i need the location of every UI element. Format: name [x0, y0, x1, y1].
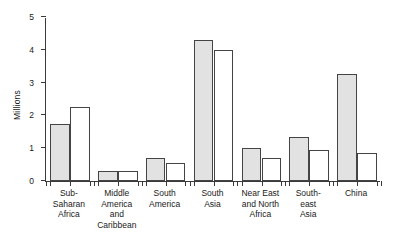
y-tick-5: 5 — [41, 16, 46, 17]
y-tick-label: 0 — [29, 177, 34, 186]
y-axis-title: Millions — [2, 0, 12, 60]
bar — [214, 50, 234, 181]
category-label: Middle America and Caribbean — [93, 188, 141, 230]
x-tick — [190, 181, 191, 186]
x-tick — [90, 181, 91, 186]
x-tick — [289, 181, 290, 186]
x-tick — [70, 181, 71, 186]
y-tick-label: 2 — [29, 111, 34, 120]
bar — [357, 153, 377, 181]
x-axis-category-labels: Sub- Saharan AfricaMiddle America and Ca… — [45, 188, 380, 238]
bar — [166, 163, 186, 181]
x-tick — [309, 181, 310, 186]
x-tick — [98, 181, 99, 186]
bar — [98, 171, 118, 181]
bar — [309, 150, 329, 181]
y-tick-label: 5 — [29, 13, 34, 22]
bar — [70, 107, 90, 181]
x-tick — [233, 181, 234, 186]
x-tick — [377, 181, 378, 186]
category-label: Sub- Saharan Africa — [45, 188, 93, 220]
x-tick — [138, 181, 139, 186]
x-tick — [285, 181, 286, 186]
x-tick — [46, 181, 47, 186]
y-axis-title-text: Millions — [12, 60, 22, 150]
x-tick — [166, 181, 167, 186]
x-tick — [242, 181, 243, 186]
x-tick — [194, 181, 195, 186]
x-tick — [237, 181, 238, 186]
category-label: Near East and North Africa — [236, 188, 284, 220]
y-tick-label: 4 — [29, 46, 34, 55]
x-tick — [214, 181, 215, 186]
y-tick-label: 3 — [29, 79, 34, 88]
bar — [146, 158, 166, 181]
plot-area: 012345 — [45, 18, 380, 182]
bar — [194, 40, 214, 181]
x-tick — [118, 181, 119, 186]
category-label: China — [332, 188, 380, 199]
x-tick — [329, 181, 330, 186]
x-tick — [333, 181, 334, 186]
x-tick — [337, 181, 338, 186]
category-label: South America — [141, 188, 189, 209]
bar — [242, 148, 262, 181]
x-tick — [281, 181, 282, 186]
bar — [50, 124, 70, 181]
bar — [262, 158, 282, 181]
x-tick — [146, 181, 147, 186]
bar — [118, 171, 138, 181]
x-tick — [50, 181, 51, 186]
category-label: South- east Asia — [284, 188, 332, 220]
x-tick — [142, 181, 143, 186]
x-tick — [185, 181, 186, 186]
y-tick-label: 1 — [29, 144, 34, 153]
bar — [337, 74, 357, 181]
x-tick — [381, 181, 382, 186]
x-tick — [94, 181, 95, 186]
category-label: South Asia — [189, 188, 237, 209]
x-tick — [357, 181, 358, 186]
x-tick — [262, 181, 263, 186]
bar — [289, 137, 309, 181]
bar-chart: Millions 012345 Sub- Saharan AfricaMiddl… — [0, 0, 395, 239]
